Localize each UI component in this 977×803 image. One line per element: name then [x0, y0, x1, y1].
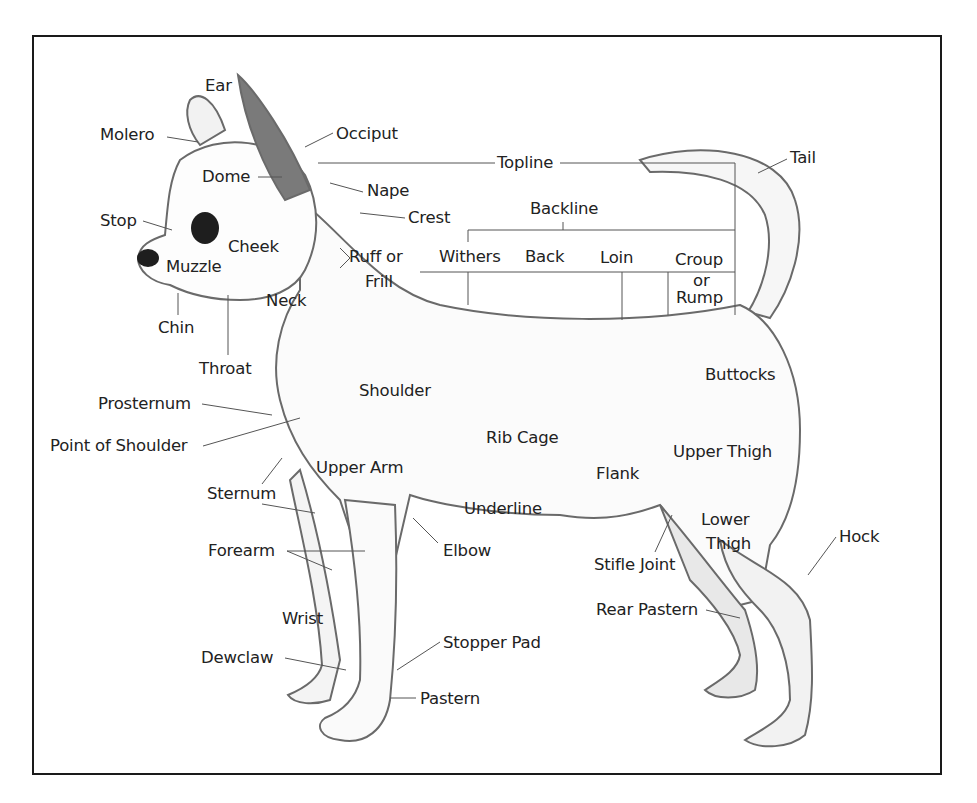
- label-tail: Tail: [790, 150, 816, 167]
- label-rib-cage: Rib Cage: [486, 430, 558, 447]
- label-underline: Underline: [464, 501, 542, 518]
- label-backline: Backline: [530, 201, 598, 218]
- label-croup: Croup: [675, 252, 723, 269]
- label-loin: Loin: [600, 250, 633, 267]
- label-prosternum: Prosternum: [98, 396, 191, 413]
- label-stop: Stop: [100, 213, 137, 230]
- label-dewclaw: Dewclaw: [201, 650, 273, 667]
- label-topline: Topline: [497, 155, 553, 172]
- label-stifle-joint: Stifle Joint: [594, 557, 675, 574]
- label-dome: Dome: [202, 169, 250, 186]
- label-withers: Withers: [439, 249, 501, 266]
- label-cheek: Cheek: [228, 239, 279, 256]
- label-wrist: Wrist: [282, 611, 323, 628]
- label-elbow: Elbow: [443, 543, 491, 560]
- label-hock: Hock: [839, 529, 879, 546]
- label-rump: Rump: [676, 290, 723, 307]
- label-ear: Ear: [205, 78, 232, 95]
- label-stopper-pad: Stopper Pad: [443, 635, 541, 652]
- label-thigh: Thigh: [706, 536, 751, 553]
- label-shoulder: Shoulder: [359, 383, 431, 400]
- label-point-of-shoulder: Point of Shoulder: [50, 438, 187, 455]
- label-upper-thigh: Upper Thigh: [673, 444, 772, 461]
- label-chin: Chin: [158, 320, 194, 337]
- label-muzzle: Muzzle: [166, 259, 222, 276]
- label-buttocks: Buttocks: [705, 367, 775, 384]
- label-pastern: Pastern: [420, 691, 480, 708]
- label-molero: Molero: [100, 127, 154, 144]
- label-lower: Lower: [701, 512, 749, 529]
- label-crest: Crest: [408, 210, 450, 227]
- label-rear-pastern: Rear Pastern: [596, 602, 698, 619]
- label-neck: Neck: [266, 293, 306, 310]
- label-throat: Throat: [199, 361, 251, 378]
- label-occiput: Occiput: [336, 126, 398, 143]
- label-upper-arm: Upper Arm: [316, 460, 403, 477]
- label-ruff-or: Ruff or: [349, 249, 403, 266]
- label-frill: Frill: [365, 274, 393, 291]
- label-sternum: Sternum: [207, 486, 276, 503]
- label-back: Back: [525, 249, 564, 266]
- label-nape: Nape: [367, 183, 409, 200]
- label-forearm: Forearm: [208, 543, 275, 560]
- label-flank: Flank: [596, 466, 639, 483]
